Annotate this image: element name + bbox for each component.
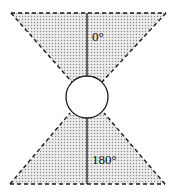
label-180-degrees: 180° [92,153,117,166]
sector-diagram [0,0,174,194]
top-sector-fill [11,13,166,82]
center-circle [66,76,108,118]
label-0-degrees: 0° [92,30,104,43]
